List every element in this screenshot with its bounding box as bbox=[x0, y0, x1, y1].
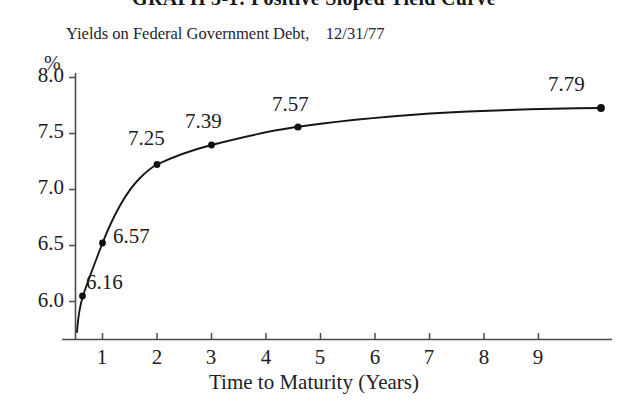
data-point-7-39 bbox=[208, 142, 215, 149]
chart-figure: GRAPH 5-1: Positive Sloped Yield Curve Y… bbox=[0, 0, 628, 403]
data-point-6-16 bbox=[79, 293, 86, 300]
chart-plot-area bbox=[0, 0, 628, 403]
data-point-7-57 bbox=[294, 123, 301, 130]
data-point-markers bbox=[79, 104, 605, 299]
yield-curve-line bbox=[77, 108, 601, 332]
data-point-7-79 bbox=[597, 104, 605, 112]
data-point-7-25 bbox=[154, 161, 161, 168]
data-point-6-57 bbox=[99, 240, 106, 247]
